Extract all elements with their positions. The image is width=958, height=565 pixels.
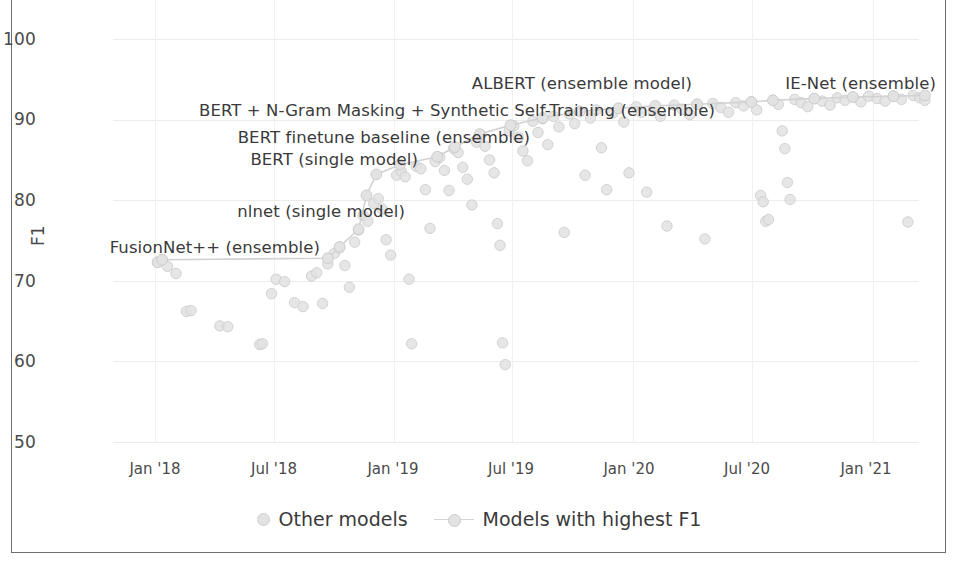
scatter-point bbox=[458, 162, 468, 172]
x-tick-jul-19: Jul '19 bbox=[488, 460, 534, 478]
x-tick-jan-21: Jan '21 bbox=[840, 460, 891, 478]
scatter-point bbox=[780, 143, 790, 153]
highest-f1-point bbox=[432, 151, 443, 162]
y-tick-80: 80 bbox=[14, 190, 36, 210]
y-tick-50: 50 bbox=[14, 432, 36, 452]
scatter-point bbox=[554, 122, 564, 132]
chart-page: 100 90 80 70 60 50 F1 Jan '18 Jul '18 Ja… bbox=[0, 0, 958, 565]
scatter-point bbox=[404, 274, 414, 284]
scatter-point bbox=[492, 218, 502, 228]
scatter-point bbox=[257, 339, 267, 349]
highest-f1-point bbox=[322, 253, 333, 264]
scatter-point bbox=[298, 301, 308, 311]
scatter-point bbox=[400, 172, 410, 182]
scatter-point bbox=[171, 268, 181, 278]
scatter-point bbox=[279, 276, 289, 286]
y-tick-60: 60 bbox=[14, 351, 36, 371]
y-tick-70: 70 bbox=[14, 271, 36, 291]
scatter-point bbox=[317, 298, 327, 308]
scatter-point bbox=[602, 185, 612, 195]
scatter-point bbox=[782, 177, 792, 187]
highest-f1-point bbox=[746, 97, 757, 108]
scatter-point bbox=[462, 174, 472, 184]
highest-f1-point bbox=[768, 95, 779, 106]
scatter-point bbox=[223, 322, 233, 332]
scatter-point bbox=[580, 170, 590, 180]
scatter-point bbox=[425, 223, 435, 233]
annotation-bert-ngram: BERT + N-Gram Masking + Synthetic Self-T… bbox=[199, 101, 715, 120]
legend-line-dot-icon bbox=[434, 514, 474, 525]
y-tick-100: 100 bbox=[3, 29, 36, 49]
scatter-point bbox=[559, 227, 569, 237]
legend-label-other-models: Other models bbox=[279, 508, 408, 530]
scatter-point bbox=[489, 168, 499, 178]
highest-f1-point bbox=[809, 93, 820, 104]
highest-f1-point bbox=[361, 190, 372, 201]
legend-item-highest-f1[interactable]: Models with highest F1 bbox=[434, 508, 702, 530]
annotation-bert-finetune: BERT finetune baseline (ensemble) bbox=[238, 128, 530, 147]
annotation-albert: ALBERT (ensemble model) bbox=[472, 74, 692, 93]
legend-label-highest-f1: Models with highest F1 bbox=[483, 508, 702, 530]
x-tick-jan-19: Jan '19 bbox=[367, 460, 418, 478]
legend-item-other-models[interactable]: Other models bbox=[257, 508, 408, 530]
scatter-point bbox=[484, 155, 494, 165]
scatter-point bbox=[662, 221, 672, 231]
annotation-fusionnet: FusionNet++ (ensemble) bbox=[110, 238, 320, 257]
annotation-bert-single: BERT (single model) bbox=[250, 150, 418, 169]
scatter-point bbox=[763, 214, 773, 224]
scatter-point bbox=[381, 235, 391, 245]
scatter-point bbox=[266, 289, 276, 299]
highest-f1-point bbox=[371, 169, 382, 180]
scatter-point bbox=[444, 185, 454, 195]
scatter-point bbox=[439, 165, 449, 175]
scatter-point bbox=[758, 197, 768, 207]
x-tick-jan-20: Jan '20 bbox=[603, 460, 654, 478]
scatter-point bbox=[903, 217, 913, 227]
scatter-point bbox=[467, 200, 477, 210]
scatter-point bbox=[700, 234, 710, 244]
scatter-point bbox=[785, 194, 795, 204]
scatter-point bbox=[522, 156, 532, 166]
scatter-point bbox=[406, 339, 416, 349]
chart-legend: Other models Models with highest F1 bbox=[0, 508, 958, 530]
scatter-point bbox=[642, 187, 652, 197]
highest-f1-point bbox=[353, 224, 364, 235]
scatter-point bbox=[420, 185, 430, 195]
scatter-point bbox=[386, 250, 396, 260]
scatter-point bbox=[596, 143, 606, 153]
x-tick-jan-18: Jan '18 bbox=[129, 460, 180, 478]
scatter-point bbox=[723, 107, 733, 117]
highest-f1-point bbox=[848, 92, 859, 103]
scatter-point bbox=[497, 338, 507, 348]
scatter-point bbox=[350, 237, 360, 247]
scatter-point bbox=[186, 305, 196, 315]
y-axis-label: F1 bbox=[28, 225, 48, 246]
scatter-point bbox=[495, 240, 505, 250]
annotation-ie-net: IE-Net (ensemble) bbox=[785, 74, 936, 93]
highest-f1-point bbox=[334, 242, 345, 253]
scatter-point bbox=[543, 139, 553, 149]
x-tick-jul-20: Jul '20 bbox=[724, 460, 770, 478]
scatter-point bbox=[500, 359, 510, 369]
x-tick-jul-18: Jul '18 bbox=[251, 460, 297, 478]
scatter-point bbox=[312, 268, 322, 278]
scatter-point bbox=[624, 168, 634, 178]
scatter-point bbox=[570, 118, 580, 128]
scatter-point bbox=[518, 146, 528, 156]
legend-dot-icon bbox=[257, 513, 270, 526]
annotation-nlnet: nlnet (single model) bbox=[237, 202, 405, 221]
scatter-point bbox=[340, 260, 350, 270]
scatter-point bbox=[533, 127, 543, 137]
scatter-point bbox=[777, 126, 787, 136]
y-tick-90: 90 bbox=[14, 109, 36, 129]
scatter-point bbox=[344, 282, 354, 292]
